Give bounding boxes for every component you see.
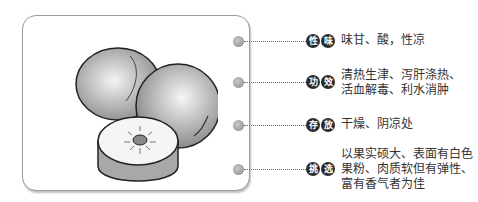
- selection-text: 以果实硕大、表面有白色 果粉、肉质软但有弹性、 富有香气者为佳: [341, 147, 473, 192]
- info-row-storage: 存 放 干燥、阴凉处: [233, 120, 413, 132]
- efficacy-text: 清热生津、泻肝涤热、 活血解毒、利水消肿: [341, 68, 461, 98]
- badge-nature-flavor: 性 味: [306, 34, 335, 48]
- badge-selection: 挑 选: [306, 162, 335, 176]
- dotted-leader: [244, 169, 306, 170]
- info-row-nature-flavor: 性 味 味甘、酸，性凉: [233, 36, 425, 48]
- nature-flavor-text: 味甘、酸，性凉: [341, 33, 425, 48]
- badge-storage: 存 放: [306, 118, 335, 132]
- storage-text: 干燥、阴凉处: [341, 117, 413, 132]
- info-row-selection: 挑 选 以果实硕大、表面有白色 果粉、肉质软但有弹性、 富有香气者为佳: [233, 164, 473, 192]
- bullet-dot-icon: [233, 120, 244, 131]
- dotted-leader: [244, 41, 306, 42]
- fruit-image-card: [22, 15, 250, 191]
- bullet-dot-icon: [233, 36, 244, 47]
- badge-efficacy: 功 效: [306, 75, 335, 89]
- peach-illustration: [68, 46, 218, 186]
- dotted-leader: [244, 82, 306, 83]
- bullet-dot-icon: [233, 77, 244, 88]
- info-row-efficacy: 功 效 清热生津、泻肝涤热、 活血解毒、利水消肿: [233, 77, 461, 98]
- bullet-dot-icon: [233, 164, 244, 175]
- dotted-leader: [244, 125, 306, 126]
